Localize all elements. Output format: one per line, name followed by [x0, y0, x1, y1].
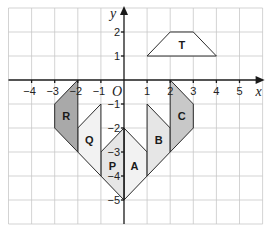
y-tick-label: 2 [114, 26, 120, 38]
shape-label-b: B [155, 134, 163, 146]
y-tick-label: −2 [107, 122, 120, 134]
x-tick-label: −2 [70, 85, 83, 97]
shape-label-c: C [178, 110, 186, 122]
x-axis-arrow-icon [256, 76, 265, 84]
coordinate-grid: TAPBQCR −4−3−2−11234521−1−2−3−4−5Oxy [0, 0, 266, 231]
x-tick-label: 4 [213, 85, 219, 97]
shape-label-r: R [62, 110, 70, 122]
x-axis-label: x [255, 84, 263, 99]
x-tick-label: 3 [190, 85, 196, 97]
shapes-layer: TAPBQCR [55, 32, 217, 200]
grid-lines [9, 8, 263, 224]
x-tick-label: −4 [23, 85, 36, 97]
axes [9, 6, 265, 224]
x-tick-label: −3 [46, 85, 59, 97]
y-axis-label: y [108, 6, 117, 21]
y-tick-label: 1 [114, 50, 120, 62]
x-tick-label: 1 [144, 85, 150, 97]
y-tick-label: −3 [107, 146, 120, 158]
y-tick-label: −5 [107, 194, 120, 206]
shape-label-q: Q [85, 134, 94, 146]
x-tick-label: 5 [236, 85, 242, 97]
shape-label-a: A [130, 160, 138, 172]
origin-label: O [112, 84, 122, 99]
x-tick-label: −1 [93, 85, 106, 97]
y-tick-label: −1 [107, 98, 120, 110]
y-axis-arrow-icon [120, 6, 128, 15]
shape-label-t: T [178, 39, 185, 51]
x-tick-label: 2 [167, 85, 173, 97]
y-tick-label: −4 [107, 170, 120, 182]
